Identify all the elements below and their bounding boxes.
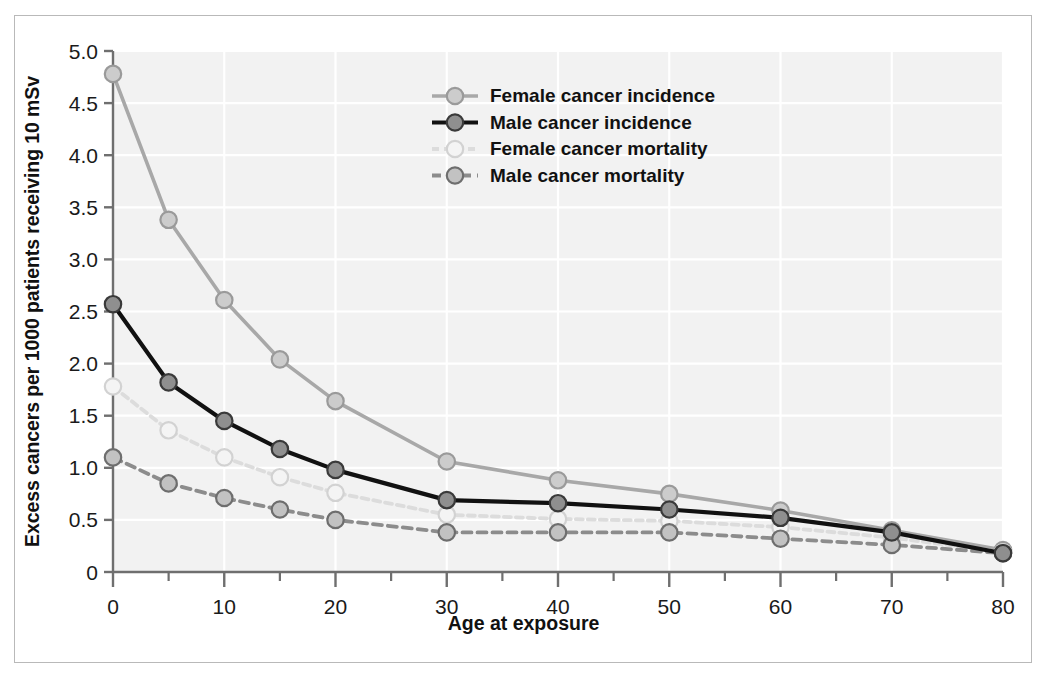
y-tick-label: 1.5 (69, 404, 98, 427)
data-point (105, 66, 121, 82)
data-point (105, 378, 121, 394)
data-point (105, 449, 121, 465)
legend-marker (447, 114, 463, 130)
data-point (160, 212, 176, 228)
data-point (327, 462, 343, 478)
legend-marker (447, 88, 463, 104)
data-point (272, 351, 288, 367)
legend-label: Male cancer mortality (490, 165, 685, 186)
x-tick-label: 0 (107, 595, 119, 618)
legend-label: Female cancer incidence (490, 85, 715, 106)
data-point (550, 472, 566, 488)
data-point (272, 441, 288, 457)
data-point (772, 510, 788, 526)
data-point (439, 492, 455, 508)
x-tick-label: 80 (991, 595, 1014, 618)
legend-label: Male cancer incidence (490, 112, 692, 133)
y-tick-label: 4.5 (69, 92, 98, 115)
x-tick-label: 40 (546, 595, 569, 618)
x-tick-label: 20 (324, 595, 347, 618)
y-tick-label: 3.5 (69, 196, 98, 219)
line-chart: 00.51.01.52.02.53.03.54.04.55.0 01020304… (0, 0, 1047, 678)
data-point (550, 524, 566, 540)
data-point (439, 524, 455, 540)
legend-marker (447, 141, 463, 157)
data-point (550, 495, 566, 511)
data-point (216, 490, 232, 506)
data-point (884, 524, 900, 540)
data-point (661, 524, 677, 540)
legend-label: Female cancer mortality (490, 138, 708, 159)
data-point (105, 296, 121, 312)
data-point (216, 449, 232, 465)
data-point (216, 292, 232, 308)
data-point (661, 486, 677, 502)
y-tick-label: 5.0 (69, 40, 98, 63)
x-tick-label: 10 (213, 595, 236, 618)
y-tick-label: 2.0 (69, 352, 98, 375)
data-point (327, 393, 343, 409)
data-point (272, 469, 288, 485)
y-tick-label: 1.0 (69, 456, 98, 479)
plot-area-wrapper: 00.51.01.52.02.53.03.54.04.55.0 01020304… (0, 0, 1047, 678)
data-point (160, 422, 176, 438)
data-point (327, 485, 343, 501)
data-point (661, 501, 677, 517)
data-point (995, 545, 1011, 561)
data-point (439, 453, 455, 469)
x-axis-ticks: 01020304050607080 (107, 572, 1015, 618)
data-point (772, 531, 788, 547)
x-tick-label: 50 (658, 595, 681, 618)
x-tick-label: 30 (435, 595, 458, 618)
y-tick-label: 4.0 (69, 144, 98, 167)
legend-marker (447, 167, 463, 183)
x-tick-label: 70 (880, 595, 903, 618)
data-point (272, 501, 288, 517)
x-tick-label: 60 (769, 595, 792, 618)
data-point (327, 512, 343, 528)
data-point (160, 374, 176, 390)
y-tick-label: 0.5 (69, 508, 98, 531)
y-tick-label: 2.5 (69, 300, 98, 323)
data-point (216, 413, 232, 429)
y-tick-label: 3.0 (69, 248, 98, 271)
data-point (160, 475, 176, 491)
y-axis-ticks: 00.51.01.52.02.53.03.54.04.55.0 (69, 40, 113, 584)
y-tick-label: 0 (86, 561, 98, 584)
figure: Excess cancers per 1000 patients receivi… (0, 0, 1047, 678)
